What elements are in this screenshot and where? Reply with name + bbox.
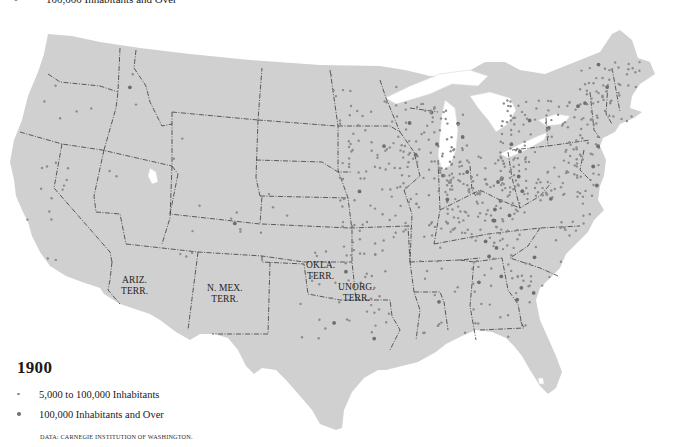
small-city-dot [459, 180, 461, 182]
small-city-dot [404, 145, 406, 147]
small-city-dot [67, 167, 69, 169]
small-city-dot [357, 124, 359, 126]
small-city-dot [440, 117, 442, 119]
small-city-dot [239, 231, 241, 233]
small-city-dot [500, 141, 502, 143]
small-city-dot [610, 100, 612, 102]
small-city-dot [462, 183, 464, 185]
small-city-dot [441, 267, 443, 269]
small-city-dot [420, 133, 422, 135]
small-city-dot [439, 172, 441, 174]
small-city-dot [388, 162, 390, 164]
small-city-dot [582, 215, 584, 217]
small-city-dot [602, 96, 604, 98]
small-city-dot [513, 123, 515, 125]
small-city-dot [523, 141, 525, 143]
small-city-dot [480, 303, 482, 305]
small-city-dot [381, 188, 383, 190]
small-city-dot [445, 110, 447, 112]
small-city-dot [542, 194, 544, 196]
large-city-dot [446, 198, 450, 202]
small-city-dot [590, 111, 592, 113]
small-city-dot [434, 294, 436, 296]
small-city-dot [464, 332, 466, 334]
small-city-dot [604, 110, 606, 112]
small-city-dot [551, 136, 553, 138]
small-city-dot [575, 229, 577, 231]
small-city-dot [472, 180, 474, 182]
small-city-dot [376, 154, 378, 156]
small-city-dot [518, 164, 520, 166]
small-city-dot [525, 161, 527, 163]
small-city-dot [547, 171, 549, 173]
small-city-dot [343, 245, 345, 247]
small-city-dot [582, 202, 584, 204]
small-city-dot [582, 222, 584, 224]
large-city-dot [491, 219, 495, 223]
small-city-dot [627, 84, 629, 86]
small-city-dot [90, 107, 92, 109]
small-city-dot [181, 137, 183, 139]
small-city-dot [592, 184, 594, 186]
small-city-dot [474, 322, 476, 324]
small-city-dot [370, 141, 372, 143]
small-city-dot [516, 229, 518, 231]
small-city-dot [370, 111, 372, 113]
small-city-dot [364, 129, 366, 131]
legend-year-title: 1900 [17, 358, 164, 378]
small-city-dot [563, 159, 565, 161]
small-city-dot [507, 336, 509, 338]
small-city-dot [480, 190, 482, 192]
large-city-dot [510, 142, 514, 146]
small-city-dot [597, 101, 599, 103]
small-city-dot [592, 172, 594, 174]
small-city-dot [573, 173, 575, 175]
small-city-dot [513, 247, 515, 249]
small-city-dot [108, 170, 110, 172]
small-city-dot [379, 167, 381, 169]
small-city-dot [524, 114, 526, 116]
small-city-dot [617, 66, 619, 68]
lake-okeechobee [538, 378, 544, 384]
small-city-dot [462, 114, 464, 116]
small-city-dot [443, 175, 445, 177]
small-city-dot [589, 213, 591, 215]
small-city-dot [579, 134, 581, 136]
small-city-dot [349, 143, 351, 145]
small-city-dot [342, 221, 344, 223]
small-city-dot [564, 121, 566, 123]
small-city-dot [369, 204, 371, 206]
small-city-dot [132, 73, 134, 75]
small-city-dot [500, 176, 502, 178]
small-city-dot [434, 160, 436, 162]
small-city-dot [506, 110, 508, 112]
small-city-dot [352, 133, 354, 135]
small-city-dot [597, 92, 599, 94]
small-city-dot [523, 211, 525, 213]
small-city-dot [509, 100, 511, 102]
small-city-dot [497, 159, 499, 161]
large-city-dot [595, 184, 599, 188]
small-city-dot [499, 151, 501, 153]
small-city-dot [582, 158, 584, 160]
small-city-dot [466, 184, 468, 186]
small-city-dot [350, 254, 352, 256]
small-city-dot [576, 174, 578, 176]
small-city-dot [495, 205, 497, 207]
small-city-dot [512, 202, 514, 204]
small-city-dot [55, 259, 57, 261]
small-city-dot [524, 324, 526, 326]
small-city-dot [554, 188, 556, 190]
small-city-dot [75, 110, 77, 112]
small-city-dot [394, 167, 396, 169]
small-city-dot [576, 165, 578, 167]
small-city-dot [494, 162, 496, 164]
small-city-dot [500, 228, 502, 230]
large-city-dot [233, 222, 237, 226]
large-city-dot [437, 300, 441, 304]
small-city-dot [66, 179, 68, 181]
small-city-dot [580, 128, 582, 130]
small-city-dot [383, 239, 385, 241]
territory-label-new-mexico: N. MEX. TERR. [207, 283, 243, 305]
small-city-dot [525, 187, 527, 189]
